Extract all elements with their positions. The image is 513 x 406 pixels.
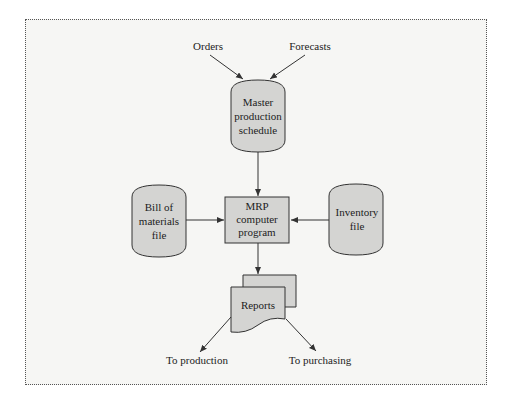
master-schedule-node: Master production schedule bbox=[231, 80, 285, 152]
orders-label: Orders bbox=[193, 40, 223, 52]
mrp-line2: computer bbox=[236, 213, 278, 225]
master-schedule-line3: schedule bbox=[239, 124, 278, 136]
mrp-line3: program bbox=[238, 226, 276, 238]
mrp-diagram: Orders Forecasts Master production sched… bbox=[0, 0, 513, 406]
mrp-line1: MRP bbox=[245, 200, 268, 212]
inventory-line2: file bbox=[350, 220, 365, 232]
master-schedule-line2: production bbox=[234, 110, 282, 122]
to-purchasing-label: To purchasing bbox=[289, 354, 352, 366]
master-schedule-line1: Master bbox=[243, 96, 274, 108]
bom-line3: file bbox=[152, 229, 167, 241]
reports-node: Reports bbox=[231, 275, 296, 332]
forecasts-arrow bbox=[270, 55, 305, 79]
forecasts-label: Forecasts bbox=[289, 40, 331, 52]
to-production-arrow bbox=[200, 317, 231, 352]
mrp-program-node: MRP computer program bbox=[225, 197, 289, 243]
bom-line2: materials bbox=[139, 215, 179, 227]
orders-arrow bbox=[210, 55, 243, 79]
inventory-line1: Inventory bbox=[336, 206, 379, 218]
bom-line1: Bill of bbox=[145, 201, 174, 213]
bill-of-materials-node: Bill of materials file bbox=[132, 185, 186, 257]
inventory-file-node: Inventory file bbox=[329, 184, 383, 255]
to-purchasing-arrow bbox=[286, 319, 316, 351]
reports-label: Reports bbox=[241, 299, 275, 311]
to-production-label: To production bbox=[166, 354, 228, 366]
